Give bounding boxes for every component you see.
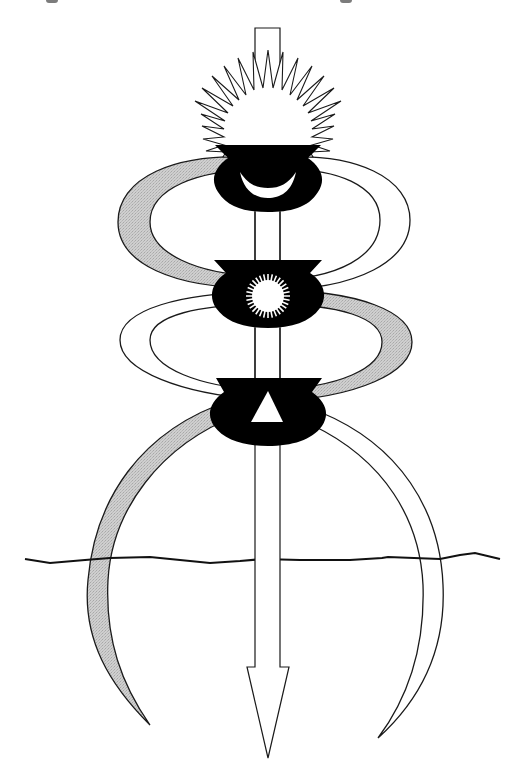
symbolic-diagram [0,0,530,774]
small-sun-icon [246,274,290,318]
vessel-sun [212,260,324,328]
vessel-triangle [210,378,326,446]
vessel-crescent [214,145,322,212]
white-horn-right [312,412,443,738]
top-sun-icon [195,50,341,157]
